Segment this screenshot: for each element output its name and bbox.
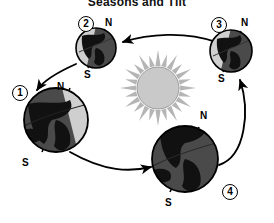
position-4-south-label: S [165, 198, 172, 208]
position-3-number: 3 [211, 17, 227, 33]
position-3-south-label: S [218, 74, 225, 84]
position-1-south-label: S [22, 158, 29, 168]
position-3-north-label: N [241, 18, 248, 28]
position-2-number: 2 [78, 16, 94, 32]
arrow-1-to-4 [70, 152, 151, 170]
position-4-number: 4 [222, 184, 238, 200]
position-1-north-label: N [57, 82, 64, 92]
earth-position-2 [76, 26, 120, 70]
earth-position-1 [24, 88, 96, 152]
seasons-diagram: Seasons and Tilt [0, 0, 274, 223]
earth-position-3 [210, 28, 256, 74]
position-1-number: 1 [12, 85, 28, 101]
sun-icon [120, 50, 196, 126]
arrow-4-to-3 [219, 80, 245, 165]
position-2-south-label: S [84, 70, 91, 80]
arrow-3-to-2 [123, 35, 216, 42]
sun-core [137, 67, 179, 109]
position-2-north-label: N [105, 18, 112, 28]
earth-position-4 [152, 122, 220, 192]
position-4-north-label: N [200, 111, 207, 121]
